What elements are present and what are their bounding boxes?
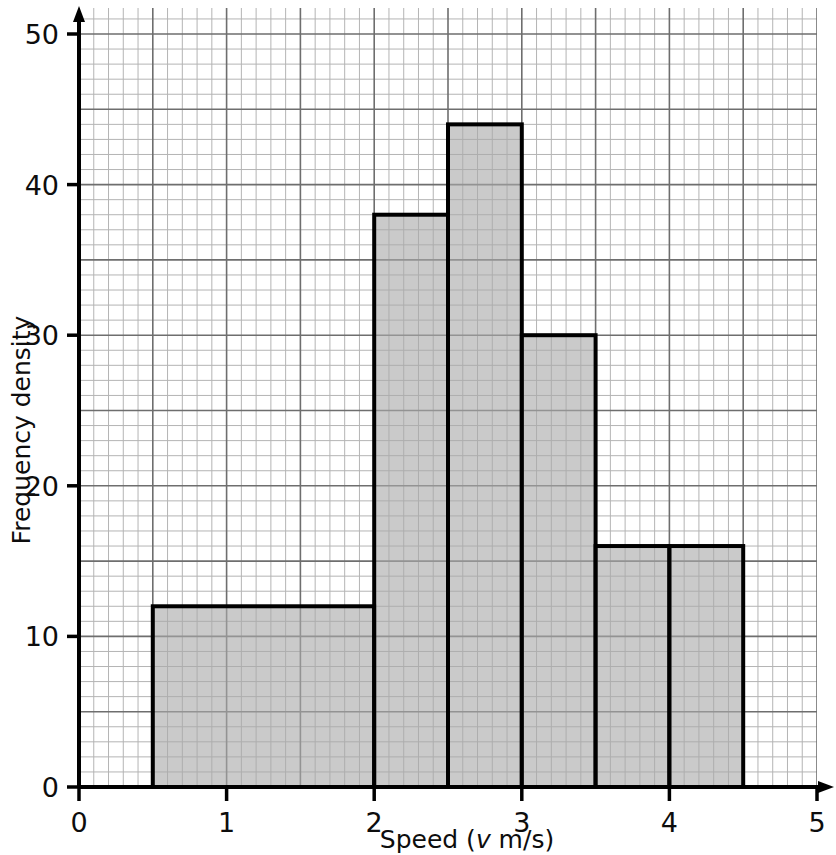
y-axis-tick-label: 40 xyxy=(25,170,59,201)
y-axis-tick-label: 10 xyxy=(25,621,59,652)
histogram-bar xyxy=(596,546,670,787)
histogram-chart: 01234501020304050 Speed (v m/s) Frequenc… xyxy=(0,0,836,855)
x-axis-title: Speed (v m/s) xyxy=(380,825,554,854)
y-axis-tick-label: 50 xyxy=(25,19,59,50)
histogram-bar xyxy=(374,215,448,787)
y-axis-title: Frequency density xyxy=(7,315,36,544)
histogram-bar xyxy=(448,124,522,787)
histogram-bar xyxy=(153,606,374,787)
chart-canvas: 01234501020304050 Speed (v m/s) Frequenc… xyxy=(0,0,836,855)
x-axis-tick-label: 0 xyxy=(70,807,87,838)
x-axis-tick-label: 1 xyxy=(218,807,235,838)
histogram-bar xyxy=(522,335,596,787)
y-axis-tick-label: 0 xyxy=(42,772,59,803)
x-axis-tick-label: 4 xyxy=(661,807,678,838)
x-axis-tick-label: 5 xyxy=(808,807,825,838)
histogram-bar xyxy=(669,546,743,787)
